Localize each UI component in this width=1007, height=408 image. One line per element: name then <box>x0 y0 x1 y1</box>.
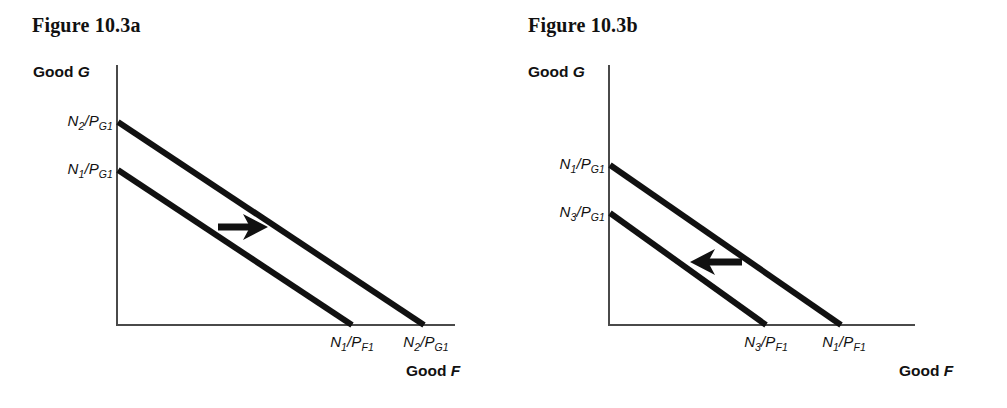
budget-line-b-outer <box>610 165 841 325</box>
plot-area-a <box>0 0 503 408</box>
budget-line-a-outer <box>118 122 424 325</box>
figure-panel-a: Figure 10.3a Good G Good F N2/PG1 N1/PG1… <box>0 0 503 408</box>
budget-line-a-inner <box>118 170 352 325</box>
budget-line-b-inner <box>610 213 766 325</box>
plot-area-b <box>504 0 1007 408</box>
figure-panel-b: Figure 10.3b Good G Good F N1/PG1 N3/PG1… <box>504 0 1007 408</box>
